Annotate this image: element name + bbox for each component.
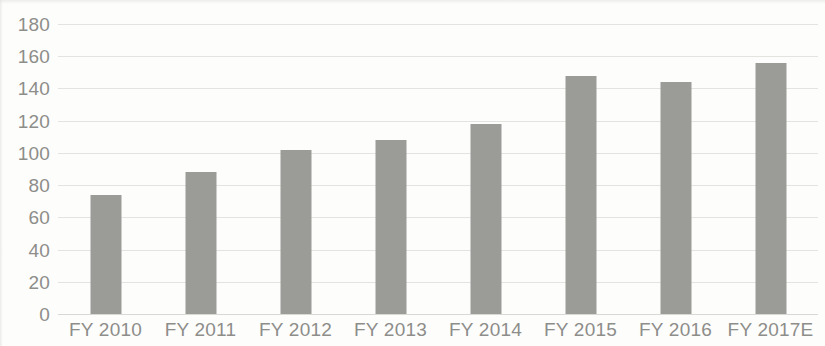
y-axis-tick-label: 160 [6, 47, 50, 66]
x-axis-tick-label: FY 2015 [531, 318, 631, 342]
bar-slot [723, 24, 818, 314]
x-axis-tick-label: FY 2010 [56, 318, 156, 342]
x-axis-tick-label: FY 2012 [246, 318, 346, 342]
bar[interactable] [470, 124, 501, 314]
bar-slot [248, 24, 343, 314]
y-axis-tick-label: 40 [6, 241, 50, 260]
bar-slot [343, 24, 438, 314]
bar-slot [438, 24, 533, 314]
bar[interactable] [660, 82, 691, 314]
x-axis-tick-label: FY 2014 [436, 318, 536, 342]
y-axis-tick-label: 140 [6, 79, 50, 98]
bar-slot [628, 24, 723, 314]
y-axis-tick-label: 80 [6, 176, 50, 195]
y-axis-tick-label: 180 [6, 15, 50, 34]
y-axis-tick-label: 20 [6, 273, 50, 292]
y-axis-tick-label: 0 [6, 305, 50, 324]
y-axis: 020406080100120140160180 [0, 24, 50, 314]
x-axis-tick-label: FY 2017E [721, 318, 821, 342]
x-axis-tick-label: FY 2016 [626, 318, 726, 342]
gridline [58, 314, 818, 315]
x-axis: FY 2010FY 2011FY 2012FY 2013FY 2014FY 20… [58, 318, 818, 346]
bar[interactable] [375, 140, 406, 314]
y-axis-tick-label: 60 [6, 208, 50, 227]
bar[interactable] [185, 172, 216, 314]
y-axis-tick-label: 100 [6, 144, 50, 163]
bar-slot [58, 24, 153, 314]
y-axis-tick-label: 120 [6, 112, 50, 131]
bar[interactable] [565, 76, 596, 314]
x-axis-tick-label: FY 2011 [151, 318, 251, 342]
bar-chart: 020406080100120140160180 FY 2010FY 2011F… [0, 0, 825, 346]
bar-slot [153, 24, 248, 314]
x-axis-tick-label: FY 2013 [341, 318, 441, 342]
bar-slot [533, 24, 628, 314]
plot-area [58, 24, 818, 314]
bar[interactable] [755, 63, 786, 314]
bar[interactable] [280, 150, 311, 314]
bar[interactable] [90, 195, 121, 314]
